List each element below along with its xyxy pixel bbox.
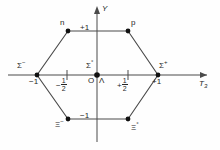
- tick-label-y-plus-one: +1: [80, 24, 89, 32]
- label-sigma-plus: Σ+: [159, 62, 167, 70]
- label-neutron: n: [60, 19, 64, 27]
- diagram-canvas: [0, 0, 220, 150]
- tick-label-y-minus-one: −1: [80, 112, 89, 120]
- tick-label-x-minus-half: −12: [56, 78, 67, 93]
- tick-label-x-plus-half: +12: [117, 78, 128, 93]
- label-sigma-minus: Σ−: [17, 62, 25, 70]
- plus-half-fraction: 12: [122, 77, 128, 92]
- marker-neutron: [66, 29, 71, 34]
- label-xi-zero: Ξ°: [131, 124, 139, 132]
- label-proton: p: [131, 19, 135, 27]
- label-xi-zero-superscript: °: [136, 121, 138, 127]
- marker-xi-minus: [66, 117, 71, 122]
- plus-half-denominator: 2: [122, 84, 128, 92]
- label-proton-text: p: [131, 18, 135, 27]
- label-neutron-text: n: [60, 18, 64, 27]
- label-sigma-zero-superscript: °: [91, 59, 93, 65]
- y-axis-label: Y: [102, 5, 107, 13]
- marker-proton: [126, 29, 131, 34]
- tick-label-x-plus-one: +1: [152, 78, 161, 86]
- label-sigma-plus-superscript: +: [164, 59, 168, 65]
- minus-half-fraction: 12: [61, 77, 67, 92]
- label-xi-minus: Ξ−: [55, 121, 64, 129]
- plus-half-numerator: 1: [122, 77, 128, 84]
- t3-axis-label: T3: [199, 80, 207, 88]
- label-sigma-minus-superscript: −: [22, 59, 26, 65]
- marker-xi-zero: [126, 117, 131, 122]
- label-lambda-text: Λ: [99, 76, 104, 85]
- minus-half-denominator: 2: [61, 84, 67, 92]
- origin-label: O: [88, 77, 94, 85]
- baryon-octet-weight-diagram: n p Σ− Σ+ Σ° Λ Ξ− Ξ° +1 −1 −1 +1 −12 +12…: [0, 0, 220, 150]
- t3-axis-label-subscript: 3: [204, 83, 207, 89]
- tick-label-x-minus-one: −1: [29, 78, 38, 86]
- label-sigma-zero: Σ°: [86, 62, 93, 70]
- label-lambda: Λ: [99, 77, 104, 85]
- minus-half-numerator: 1: [61, 77, 67, 84]
- label-xi-minus-superscript: −: [60, 118, 64, 124]
